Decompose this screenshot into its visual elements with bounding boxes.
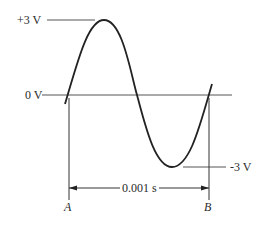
sine-wave-diagram: +3 V 0 V -3 V 0.001 s A B [0, 0, 272, 228]
positive-peak-label: +3 V [17, 13, 42, 27]
point-a-label: A [63, 200, 72, 214]
sine-wave-curve [65, 20, 212, 167]
negative-peak-label: -3 V [230, 160, 252, 174]
arrowhead-left-icon [69, 186, 77, 191]
arrowhead-right-icon [201, 186, 209, 191]
period-label: 0.001 s [122, 181, 157, 195]
zero-label: 0 V [25, 88, 43, 102]
point-b-label: B [204, 200, 212, 214]
